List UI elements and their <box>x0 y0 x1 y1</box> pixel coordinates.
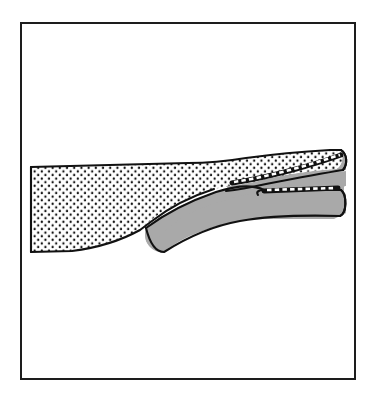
figure-root: Tapered band splitting into two branches <box>0 0 377 395</box>
lower-branch-fill <box>262 190 346 217</box>
technical-illustration: Tapered band splitting into two branches <box>0 0 377 395</box>
